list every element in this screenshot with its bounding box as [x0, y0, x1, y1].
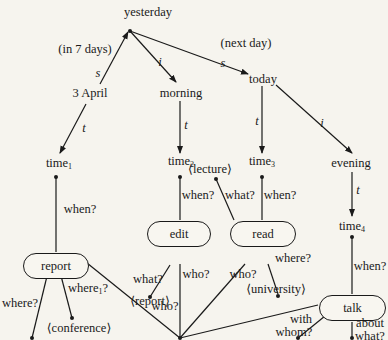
label-when-edit: when? [182, 188, 215, 202]
label-next-day: (next day) [220, 36, 271, 50]
label-what-read: what? [225, 188, 255, 202]
edge-today-evening [276, 85, 352, 153]
label-t2: t [184, 118, 187, 132]
node-today: today [249, 72, 277, 86]
label-s1: s [96, 66, 101, 80]
node-morning: morning [160, 86, 202, 100]
label-who-read: who? [229, 267, 256, 281]
node-read: read [230, 221, 296, 247]
label-whom: whom? [276, 325, 313, 339]
node-3-april: 3 April [72, 86, 107, 100]
label-where1-report: where1? [68, 281, 108, 299]
edge-yesterday-morning [130, 31, 176, 82]
semantic-network-diagram: yesterday 3 April morning today evening … [0, 0, 388, 340]
label-i2: i [320, 116, 323, 130]
node-lecture: ⟨lecture⟩ [188, 162, 232, 176]
label-s2: s [221, 56, 226, 70]
node-edit: edit [147, 221, 211, 247]
label-when-report: when? [64, 202, 97, 216]
label-where-read: where? [275, 251, 311, 265]
label-in-7-days: (in 7 days) [58, 42, 111, 56]
node-conference: ⟨conference⟩ [47, 321, 112, 335]
label-about: about [356, 316, 384, 330]
label-with: with [290, 312, 312, 326]
label-t4: t [356, 183, 359, 197]
label-what-edit: what? [133, 272, 163, 286]
node-time3: time3 [249, 154, 275, 172]
label-when-read: when? [264, 188, 297, 202]
label-who-report: who? [151, 299, 178, 313]
node-evening: evening [331, 156, 371, 170]
label-i1: i [158, 55, 161, 69]
node-university: ⟨university⟩ [246, 282, 306, 296]
label-about-what: what? [355, 329, 385, 340]
node-time1: time1 [46, 156, 72, 174]
label-who-edit: who? [182, 267, 209, 281]
label-t3: t [255, 114, 258, 128]
label-when-talk: when? [354, 259, 387, 273]
node-report: report [23, 253, 89, 279]
label-t1: t [82, 121, 85, 135]
node-time4: time4 [339, 219, 365, 237]
label-where-report: where? [2, 296, 38, 310]
node-yesterday: yesterday [124, 5, 172, 19]
edge-april-yesterday [100, 32, 128, 84]
